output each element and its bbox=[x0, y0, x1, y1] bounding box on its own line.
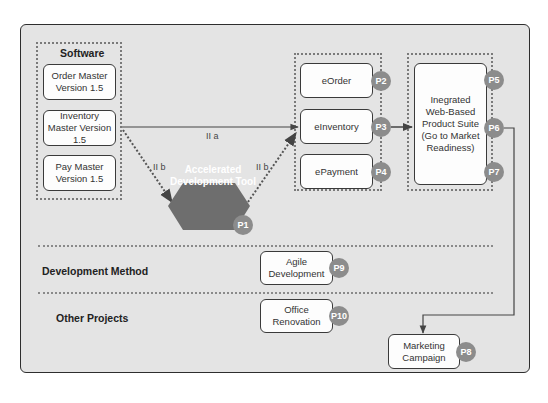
suite-box[interactable]: Inegrated Web-Based Product Suite (Go to… bbox=[414, 63, 487, 185]
software-heading: Software bbox=[60, 47, 104, 59]
edge-label-a: II a bbox=[206, 131, 219, 141]
agile-development-box[interactable]: Agile Development bbox=[260, 251, 333, 285]
badge-p10: P10 bbox=[329, 306, 349, 326]
marketing-campaign-label: Marketing Campaign bbox=[394, 340, 454, 364]
badge-p6: P6 bbox=[484, 118, 504, 138]
marketing-campaign-box[interactable]: Marketing Campaign bbox=[388, 334, 460, 369]
pay-master-box[interactable]: Pay Master Version 1.5 bbox=[43, 155, 116, 191]
badge-p1: P1 bbox=[233, 215, 253, 235]
order-master-box[interactable]: Order Master Version 1.5 bbox=[43, 64, 116, 100]
badge-p5: P5 bbox=[484, 70, 504, 90]
eorder-label: eOrder bbox=[322, 75, 352, 87]
office-renovation-label: Office Renovation bbox=[267, 304, 327, 328]
tool-label: Accelerated Development Tool bbox=[168, 164, 258, 188]
divider-2 bbox=[38, 292, 493, 294]
other-projects-heading: Other Projects bbox=[56, 312, 128, 324]
epayment-label: ePayment bbox=[315, 166, 358, 178]
badge-p7: P7 bbox=[484, 162, 504, 182]
einventory-box[interactable]: eInventory bbox=[300, 109, 373, 144]
badge-p2: P2 bbox=[371, 71, 391, 91]
badge-p3: P3 bbox=[371, 117, 391, 137]
suite-label: Inegrated Web-Based Product Suite (Go to… bbox=[419, 94, 483, 154]
epayment-box[interactable]: ePayment bbox=[300, 154, 373, 189]
badge-p9: P9 bbox=[329, 258, 349, 278]
pay-master-label: Pay Master Version 1.5 bbox=[50, 161, 110, 185]
badge-p8: P8 bbox=[456, 342, 476, 362]
divider-1 bbox=[38, 245, 493, 247]
development-method-heading: Development Method bbox=[42, 265, 148, 277]
inventory-master-label: Inventory Master Version 1.5 bbox=[45, 110, 115, 146]
agile-development-label: Agile Development bbox=[267, 256, 327, 280]
edge-label-b-left: II b bbox=[153, 162, 166, 172]
office-renovation-box[interactable]: Office Renovation bbox=[260, 299, 333, 333]
einventory-label: eInventory bbox=[314, 121, 358, 133]
badge-p4: P4 bbox=[371, 162, 391, 182]
eorder-box[interactable]: eOrder bbox=[300, 63, 373, 98]
inventory-master-box[interactable]: Inventory Master Version 1.5 bbox=[43, 110, 116, 146]
order-master-label: Order Master Version 1.5 bbox=[50, 70, 110, 94]
